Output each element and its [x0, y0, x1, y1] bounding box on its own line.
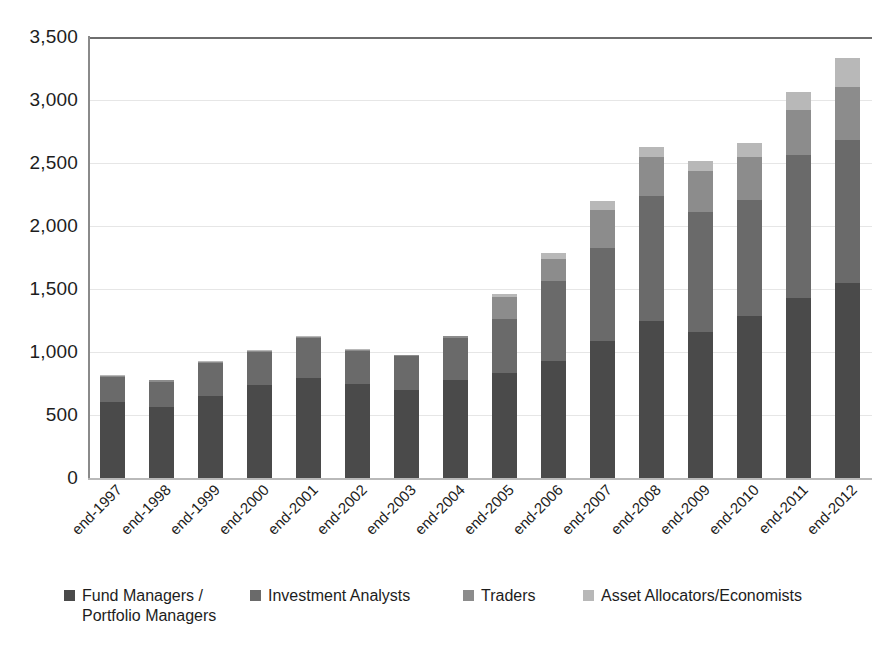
bar-end-1999[interactable] — [198, 361, 223, 478]
stacked-bar-chart: 05001,0001,5002,0002,5003,0003,500 end-1… — [0, 0, 879, 652]
bar-segment — [590, 210, 615, 248]
bar-end-2006[interactable] — [541, 253, 566, 478]
bar-segment — [639, 321, 664, 479]
bar-end-2001[interactable] — [296, 336, 321, 478]
bar-segment — [541, 259, 566, 282]
bar-end-2008[interactable] — [639, 147, 664, 478]
bar-segment — [737, 200, 762, 317]
bar-segment — [835, 140, 860, 282]
y-axis-tick-label: 1,000 — [29, 341, 78, 363]
bar-segment — [492, 297, 517, 318]
y-axis-tick-label: 500 — [46, 404, 78, 426]
y-axis-tick-labels: 05001,0001,5002,0002,5003,0003,500 — [0, 0, 78, 652]
bar-end-2003[interactable] — [394, 355, 419, 478]
y-axis-tick-label: 0 — [67, 467, 78, 489]
x-axis-tick-label: end-2011 — [754, 481, 810, 537]
x-axis-tick-label: end-2007 — [558, 481, 615, 538]
chart-legend: Fund Managers / Portfolio ManagersInvest… — [64, 586, 879, 646]
bar-segment — [737, 316, 762, 478]
bar-segment — [198, 396, 223, 478]
bar-end-2007[interactable] — [590, 201, 615, 478]
x-axis-tick-label: end-2010 — [705, 481, 762, 538]
legend-item[interactable]: Fund Managers / Portfolio Managers — [64, 586, 216, 626]
bar-segment — [688, 212, 713, 332]
x-axis-tick-label: end-2004 — [411, 481, 468, 538]
legend-swatch-icon — [583, 590, 594, 601]
x-axis-tick-label: end-2012 — [803, 481, 860, 538]
legend-swatch-icon — [64, 590, 75, 601]
bar-segment — [835, 58, 860, 87]
bar-end-2011[interactable] — [786, 92, 811, 478]
y-axis-tick-label: 2,000 — [29, 215, 78, 237]
legend-item[interactable]: Asset Allocators/Economists — [583, 586, 802, 606]
bar-end-2010[interactable] — [737, 143, 762, 478]
x-axis-tick-label: end-2000 — [215, 481, 272, 538]
x-axis-tick-label: end-2001 — [264, 481, 321, 538]
legend-label: Fund Managers / Portfolio Managers — [82, 586, 216, 626]
bar-segment — [737, 157, 762, 200]
bar-segment — [443, 338, 468, 381]
bar-segment — [541, 361, 566, 478]
bar-end-2004[interactable] — [443, 336, 468, 478]
bar-segment — [786, 155, 811, 297]
bar-segment — [541, 281, 566, 360]
legend-label: Investment Analysts — [268, 586, 410, 606]
bar-segment — [100, 402, 125, 478]
bar-segment — [149, 407, 174, 478]
bar-segment — [394, 390, 419, 478]
bar-end-2002[interactable] — [345, 349, 370, 478]
bar-segment — [198, 363, 223, 396]
legend-label: Traders — [481, 586, 536, 606]
bar-segment — [688, 332, 713, 478]
y-axis-tick-label: 3,000 — [29, 89, 78, 111]
gridline — [88, 37, 872, 39]
bar-segment — [492, 373, 517, 478]
bar-segment — [590, 341, 615, 478]
x-axis-line — [88, 478, 872, 480]
legend-label: Asset Allocators/Economists — [601, 586, 802, 606]
y-axis-tick-label: 3,500 — [29, 26, 78, 48]
bar-segment — [247, 385, 272, 478]
bar-segment — [443, 380, 468, 478]
bar-segment — [590, 201, 615, 210]
bar-segment — [590, 248, 615, 341]
legend-swatch-icon — [250, 590, 261, 601]
bar-segment — [639, 157, 664, 196]
x-axis-tick-labels: end-1997end-1998end-1999end-2000end-2001… — [88, 481, 872, 576]
x-axis-tick-label: end-1998 — [117, 481, 174, 538]
x-axis-tick-label: end-2005 — [460, 481, 517, 538]
bar-segment — [247, 352, 272, 385]
x-axis-tick-label: end-2002 — [313, 481, 370, 538]
y-axis-tick-label: 2,500 — [29, 152, 78, 174]
bar-end-1998[interactable] — [149, 380, 174, 478]
bar-segment — [786, 298, 811, 478]
legend-item[interactable]: Investment Analysts — [250, 586, 410, 606]
bar-segment — [786, 92, 811, 110]
bar-segment — [786, 110, 811, 155]
bar-end-2005[interactable] — [492, 294, 517, 478]
bar-segment — [639, 147, 664, 157]
x-axis-tick-label: end-1999 — [166, 481, 223, 538]
plot-area — [88, 37, 872, 478]
legend-item[interactable]: Traders — [463, 586, 536, 606]
bar-segment — [345, 384, 370, 478]
bar-segment — [345, 351, 370, 384]
bar-segment — [688, 171, 713, 213]
bar-end-2009[interactable] — [688, 161, 713, 479]
bar-segment — [835, 283, 860, 478]
legend-swatch-icon — [463, 590, 474, 601]
bar-segment — [639, 196, 664, 321]
bar-segment — [296, 378, 321, 478]
bar-end-1997[interactable] — [100, 375, 125, 478]
x-axis-tick-label: end-2006 — [509, 481, 566, 538]
bar-segment — [394, 356, 419, 389]
bar-segment — [100, 377, 125, 402]
bar-end-2012[interactable] — [835, 58, 860, 478]
bar-segment — [835, 87, 860, 140]
bar-segment — [688, 161, 713, 171]
y-axis-tick-label: 1,500 — [29, 278, 78, 300]
bar-segment — [149, 382, 174, 408]
bar-end-2000[interactable] — [247, 350, 272, 478]
gridline — [88, 100, 872, 101]
bar-segment — [492, 319, 517, 373]
